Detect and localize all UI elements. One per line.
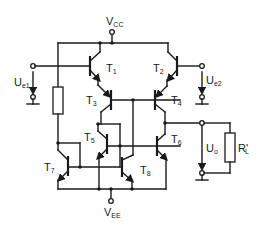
transistor-t1: T1 xyxy=(90,43,117,85)
bias-resistor xyxy=(53,43,63,143)
load-resistor: R'L xyxy=(225,123,249,173)
input-ue2: Ue2 xyxy=(177,64,222,104)
ue2-terminal xyxy=(200,64,205,69)
ue2-label: Ue2 xyxy=(206,74,222,87)
vee-terminal xyxy=(109,199,114,204)
t2-label: T2 xyxy=(153,62,164,75)
rl-label: R'L xyxy=(238,142,249,155)
vcc-supply: VCC xyxy=(58,15,168,45)
t3-label: T3 xyxy=(86,94,97,107)
transistor-t6: T6 xyxy=(157,121,182,189)
transistor-t8: T8 xyxy=(120,146,151,189)
t4-label: T4 xyxy=(171,94,182,107)
t1-label: T1 xyxy=(106,62,117,75)
transistor-t4: T4 xyxy=(155,86,182,123)
vee-supply: VEE xyxy=(58,187,166,219)
transistor-t7: T7 xyxy=(44,141,120,189)
transistor-t2: T2 xyxy=(153,43,177,86)
circuit-diagram: VCC T1 Ue1 T3 xyxy=(0,0,263,229)
input-ue1: Ue1 xyxy=(14,64,90,104)
vee-label: VEE xyxy=(104,206,121,219)
output-uo: Uo xyxy=(165,121,230,180)
t6-label: T6 xyxy=(171,133,182,146)
vcc-label: VCC xyxy=(106,15,123,28)
t7-label: T7 xyxy=(44,161,55,174)
vcc-terminal xyxy=(110,30,115,35)
ue1-label: Ue1 xyxy=(14,76,30,89)
uo-label: Uo xyxy=(206,142,218,155)
t8-label: T8 xyxy=(140,164,151,177)
t5-label: T5 xyxy=(84,131,95,144)
